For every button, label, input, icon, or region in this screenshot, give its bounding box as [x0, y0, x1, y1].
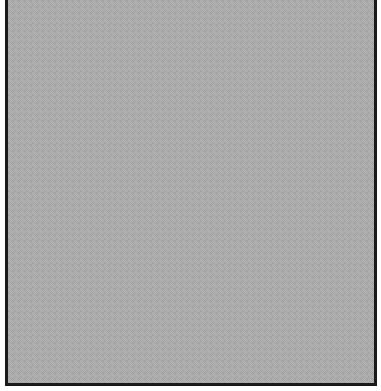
gray-dithered-panel	[5, 0, 377, 386]
canvas	[0, 0, 381, 391]
